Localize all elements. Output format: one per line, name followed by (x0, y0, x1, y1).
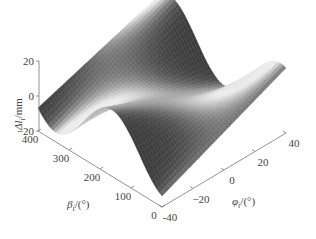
phi-tick (159, 205, 162, 207)
phi-tick (221, 168, 224, 170)
beta-tick-label: 400 (22, 133, 39, 145)
phi-tick-label: -40 (163, 211, 178, 223)
phi-tick (252, 150, 255, 152)
beta-tick-label: 100 (115, 190, 132, 202)
beta-tick (100, 167, 103, 169)
beta-axis-label: βi/(°) (66, 198, 90, 213)
phi-axis-label: φi/(°) (232, 195, 255, 210)
beta-tick-label: 300 (53, 152, 70, 164)
z-tick-label: 20 (23, 55, 35, 67)
surface-mesh (38, 0, 286, 196)
phi-tick (283, 131, 286, 133)
beta-tick (162, 205, 165, 207)
beta-tick-label: 0 (151, 209, 157, 221)
beta-tick (69, 148, 72, 150)
beta-tick-label: 200 (84, 171, 101, 183)
phi-tick (190, 187, 193, 189)
z-tick-label: 0 (29, 90, 35, 102)
phi-tick-label: −20 (192, 193, 210, 205)
phi-tick-label: 40 (289, 137, 301, 149)
surface-chart: −20020 0100200300400 -40−2002040 Δli/mm … (0, 0, 316, 239)
beta-tick (131, 186, 134, 188)
phi-tick-label: 20 (258, 156, 270, 168)
phi-tick-label: 0 (229, 174, 235, 186)
beta-tick (38, 129, 41, 131)
